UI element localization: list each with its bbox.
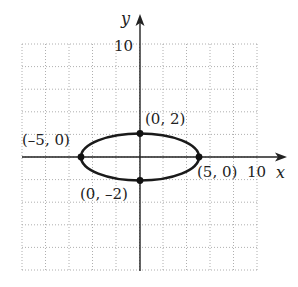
ellipse-graph: y 10 x 10 (0, 2) (0, –2) (–5, 0) (5, 0) [0, 0, 298, 287]
point-label-left: (–5, 0) [22, 131, 70, 149]
y-axis-label: y [120, 9, 131, 28]
point-label-top: (0, 2) [145, 110, 185, 128]
point-label-bottom: (0, –2) [80, 185, 128, 203]
point-left [78, 154, 85, 161]
point-label-right: (5, 0) [197, 163, 237, 181]
y-tick-label-10: 10 [114, 37, 133, 55]
x-axis-label: x [276, 163, 285, 182]
point-top [137, 130, 144, 137]
point-bottom [137, 177, 144, 184]
point-right [196, 154, 203, 161]
x-tick-label-10: 10 [247, 163, 266, 181]
